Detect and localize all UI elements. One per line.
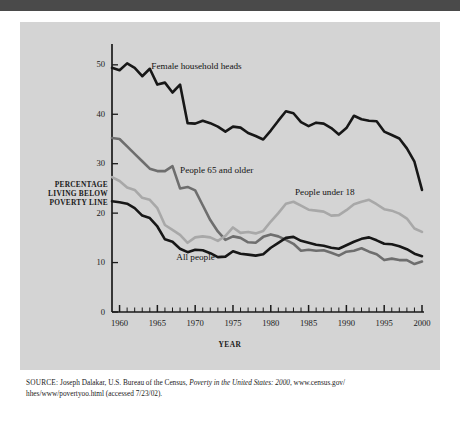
series-label-people-under-18: People under 18: [295, 187, 355, 197]
source-note: SOURCE: Joseph Dalakar, U.S. Bureau of t…: [26, 378, 434, 399]
y-tick-label-20: 20: [87, 208, 105, 218]
y-axis-title-line-2: LIVING BELOW: [28, 189, 108, 198]
x-tick-label-1975: 1975: [218, 318, 248, 328]
x-tick-label-1965: 1965: [142, 318, 172, 328]
top-decorative-bar: [0, 0, 460, 11]
x-tick-label-1985: 1985: [294, 318, 324, 328]
x-tick-label-1960: 1960: [105, 318, 135, 328]
y-tick-label-30: 30: [87, 158, 105, 168]
y-axis-title: PERCENTAGE LIVING BELOW POVERTY LINE: [28, 180, 108, 208]
source-prefix: SOURCE:: [26, 378, 58, 387]
y-tick-label-50: 50: [87, 59, 105, 69]
chart-series-lines: [112, 63, 422, 264]
x-tick-label-2000: 2000: [407, 318, 437, 328]
source-title: Poverty in the United States: 2000: [189, 378, 290, 387]
y-axis-title-line-3: POVERTY LINE: [28, 198, 108, 207]
x-tick-label-1990: 1990: [331, 318, 361, 328]
y-tick-label-10: 10: [87, 257, 105, 267]
y-tick-label-40: 40: [87, 109, 105, 119]
x-tick-label-1995: 1995: [369, 318, 399, 328]
chart-figure-panel: PERCENTAGE LIVING BELOW POVERTY LINE YEA…: [20, 22, 440, 370]
x-tick-label-1970: 1970: [180, 318, 210, 328]
x-tick-label-1980: 1980: [256, 318, 286, 328]
y-axis-title-line-1: PERCENTAGE: [28, 180, 108, 189]
series-label-female-household-heads: Female household heads: [151, 61, 241, 71]
source-rest: , www.census.gov/: [290, 378, 345, 387]
x-axis-title: YEAR: [20, 340, 440, 349]
source-author: Joseph Dalakar, U.S. Bureau of the Censu…: [58, 378, 189, 387]
series-label-all-people: All people: [176, 252, 215, 262]
y-tick-label-0: 0: [87, 307, 105, 317]
source-line-2: hhes/www/povertyoo.html (accessed 7/23/0…: [26, 389, 162, 398]
series-label-people-65-and-older: People 65 and older: [180, 165, 253, 175]
